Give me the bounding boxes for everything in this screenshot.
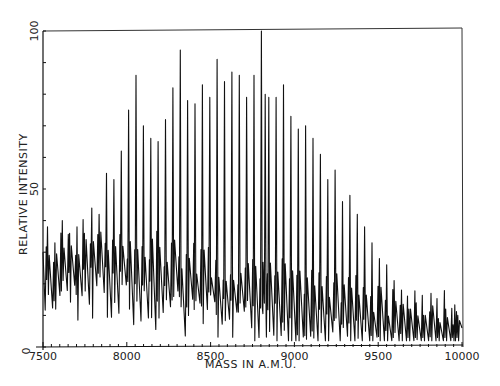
y-axis-title: RELATIVE INTENSITY (17, 133, 30, 255)
x-tick-label: 10000 (445, 350, 480, 363)
x-axis (36, 345, 463, 347)
top-border (43, 28, 462, 31)
x-tick-label: 7500 (29, 350, 57, 363)
x-tick-label: 8000 (113, 350, 141, 363)
plot-frame (36, 28, 463, 350)
x-axis-title: MASS IN A.M.U. (205, 358, 297, 371)
spectrum-trace (43, 31, 462, 341)
mass-spectrum-chart: 7500800085009000950010000 050100 MASS IN… (0, 0, 500, 386)
right-border (462, 28, 463, 347)
x-tick-label: 9500 (364, 350, 392, 363)
y-tick-label: 100 (28, 21, 41, 42)
y-tick-label: 0 (20, 348, 33, 355)
